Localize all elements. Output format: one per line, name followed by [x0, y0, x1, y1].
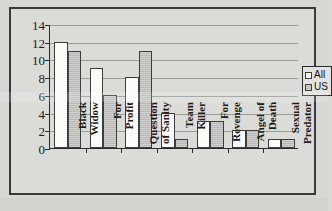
y-tick-mark	[45, 96, 50, 97]
x-axis-label: Angel of Death	[255, 102, 278, 154]
y-tick-mark	[45, 43, 50, 44]
y-tick-mark	[45, 149, 50, 150]
legend-item-all[interactable]: All	[305, 69, 328, 81]
y-tick-mark	[45, 78, 50, 79]
scan-artifact-bottom	[0, 198, 328, 211]
y-axis: 02468101214	[25, 19, 49, 155]
legend-item-us[interactable]: US	[305, 81, 328, 93]
x-axis-label: For Revenge	[219, 102, 242, 154]
y-tick-mark	[45, 131, 50, 132]
legend: All US	[302, 66, 332, 96]
bar-all[interactable]	[54, 42, 68, 148]
x-axis-label: For Profit	[112, 102, 135, 154]
legend-label-all: All	[314, 70, 325, 80]
chart-outer-frame: 02468101214 Black WidowFor ProfitQuestio…	[9, 7, 316, 195]
legend-swatch-all-icon	[305, 72, 312, 79]
y-tick-mark	[45, 114, 50, 115]
y-tick-mark	[45, 60, 50, 61]
x-axis-label: Question of Sanity	[148, 102, 171, 154]
x-axis-label: Black Widow	[77, 102, 100, 154]
y-tick-label: 14	[32, 19, 45, 32]
x-axis-label: Sexual Predator	[290, 102, 313, 154]
legend-label-us: US	[314, 82, 328, 92]
y-tick-label: 12	[32, 36, 45, 49]
x-axis-label: Team Killer	[184, 102, 207, 154]
y-tick-mark	[45, 25, 50, 26]
y-tick-label: 10	[32, 54, 45, 67]
legend-swatch-us-icon	[305, 84, 312, 91]
